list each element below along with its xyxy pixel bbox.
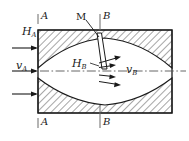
label-height-a-subscript: A	[32, 31, 37, 39]
height-b-leader	[90, 63, 99, 66]
inlet-arrow-bottom-head	[31, 91, 38, 96]
label-section-a-top: A	[41, 11, 48, 21]
label-height-a: HA	[22, 26, 37, 39]
inlet-arrow-top-head	[31, 45, 38, 50]
lower-wall	[38, 78, 172, 113]
lower-wall-fill	[38, 78, 172, 113]
label-height-a-base: H	[22, 25, 32, 38]
label-height-b-base: H	[72, 57, 82, 70]
label-section-b-top: B	[103, 11, 110, 21]
label-member-m: M	[76, 12, 86, 22]
label-velocity-a-subscript: A	[22, 65, 27, 73]
label-velocity-b: vB	[126, 64, 137, 77]
outlet-arrow-4-head	[114, 82, 121, 87]
inlet-arrow-mid-head	[31, 68, 38, 73]
label-section-b-bottom: B	[103, 117, 110, 127]
label-height-b: HB	[72, 58, 87, 71]
label-velocity-a: vA	[16, 60, 27, 73]
label-section-a-bottom: A	[41, 117, 48, 127]
label-velocity-b-subscript: B	[132, 69, 137, 77]
outlet-arrow-3-head	[109, 74, 116, 79]
outlet-arrow-2-head	[109, 63, 116, 68]
outlet-arrow-1-head	[114, 56, 121, 61]
nozzle-cross-section-figure	[0, 0, 189, 141]
label-height-b-subscript: B	[82, 63, 87, 71]
